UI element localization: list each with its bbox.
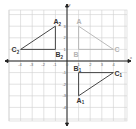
vertex-label-b: B bbox=[74, 51, 79, 58]
x-tick-label: -4 bbox=[18, 62, 22, 67]
vertex-label-a1: A1 bbox=[77, 97, 85, 106]
x-tick-label: -2 bbox=[41, 62, 45, 67]
x-tick-label: 2 bbox=[89, 62, 92, 67]
vertex-label-a: A bbox=[77, 18, 82, 25]
y-axis-label: y bbox=[69, 2, 71, 7]
x-tick-label: 0 bbox=[66, 62, 69, 67]
vertex-label-c1: C1 bbox=[114, 70, 122, 79]
vertex-label-a2: A2 bbox=[53, 18, 61, 27]
vertex-label-b1: B1 bbox=[74, 65, 82, 74]
x-tick-label: -3 bbox=[30, 62, 34, 67]
x-axis-label: x bbox=[130, 55, 132, 60]
vertex-label-c2: C2 bbox=[12, 46, 20, 55]
coordinate-plane: xy-4-3-2-101234321-1-2-3-4 ABCA1B1C1A2B2… bbox=[0, 0, 136, 129]
vertex-label-c: C bbox=[114, 46, 119, 53]
x-tick-label: -1 bbox=[53, 62, 57, 67]
x-tick-label: 3 bbox=[101, 62, 104, 67]
vertex-label-b2: B2 bbox=[55, 51, 63, 60]
x-tick-label: 4 bbox=[112, 62, 115, 67]
